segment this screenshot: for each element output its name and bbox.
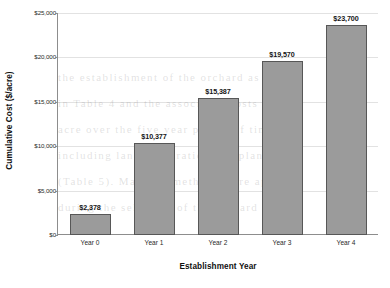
- bar-group[interactable]: $19,570: [262, 13, 303, 235]
- y-tick-mark: [55, 146, 58, 147]
- bar-value-label: $23,700: [333, 14, 358, 23]
- y-tick-label: $10,000: [22, 143, 56, 149]
- bar-year-3[interactable]: [262, 61, 303, 235]
- y-tick-mark: [55, 235, 58, 236]
- x-axis-title: Establishment Year: [58, 262, 378, 271]
- bar-year-2[interactable]: [198, 98, 239, 235]
- bar-group[interactable]: $10,377: [134, 13, 175, 235]
- bar-group[interactable]: $2,378: [70, 13, 111, 235]
- bar-year-1[interactable]: [134, 143, 175, 235]
- bar-year-4[interactable]: [326, 25, 367, 235]
- y-axis-title-label: Cumulative Cost ($/acre): [5, 71, 14, 169]
- y-axis-tick-labels: $0$5,000$10,000$15,000$20,000$25,000: [18, 0, 56, 288]
- x-tick-label: Year 1: [145, 239, 164, 246]
- plot-area: the establishment of the orchard as show…: [58, 13, 378, 235]
- y-tick-label: $20,000: [22, 54, 56, 60]
- bars-layer: $2,378$10,377$15,387$19,570$23,700: [58, 13, 378, 235]
- y-tick-mark: [55, 57, 58, 58]
- x-tick-label: Year 3: [273, 239, 292, 246]
- y-tick-label: $5,000: [22, 187, 56, 193]
- y-tick-mark: [55, 191, 58, 192]
- y-tick-mark: [55, 13, 58, 14]
- y-axis-title: Cumulative Cost ($/acre): [0, 0, 18, 240]
- x-tick-label: Year 0: [81, 239, 100, 246]
- bar-year-0[interactable]: [70, 214, 111, 235]
- bar-value-label: $10,377: [141, 132, 166, 141]
- bar-value-label: $19,570: [269, 50, 294, 59]
- bar-value-label: $15,387: [205, 87, 230, 96]
- x-tick-label: Year 2: [209, 239, 228, 246]
- bar-group[interactable]: $23,700: [326, 13, 367, 235]
- x-tick-label: Year 4: [337, 239, 356, 246]
- bar-chart-figure: Cumulative Cost ($/acre) $0$5,000$10,000…: [0, 0, 390, 288]
- bar-value-label: $2,378: [79, 203, 100, 212]
- x-axis-tick-labels: Year 0Year 1Year 2Year 3Year 4: [58, 239, 378, 251]
- bar-group[interactable]: $15,387: [198, 13, 239, 235]
- y-tick-mark: [55, 102, 58, 103]
- y-tick-label: $15,000: [22, 99, 56, 105]
- y-tick-label: $25,000: [22, 10, 56, 16]
- y-tick-label: $0: [22, 232, 56, 238]
